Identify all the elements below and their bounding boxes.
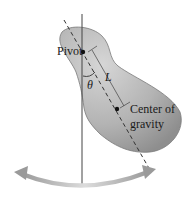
arrow-head-right bbox=[142, 165, 156, 179]
pivot-label: Pivot bbox=[57, 44, 82, 59]
swing-arrow bbox=[22, 172, 148, 186]
center-of-gravity-label: Center of bbox=[130, 102, 175, 117]
center-of-gravity-point bbox=[115, 107, 119, 111]
length-label: L bbox=[105, 70, 112, 85]
diagram-graphics bbox=[0, 0, 195, 199]
angle-label: θ bbox=[87, 78, 93, 93]
center-of-gravity-label-line2: gravity bbox=[130, 117, 164, 132]
physical-pendulum-diagram: Pivot θ L Center of gravity bbox=[0, 0, 195, 199]
arrow-head-left bbox=[14, 166, 28, 180]
